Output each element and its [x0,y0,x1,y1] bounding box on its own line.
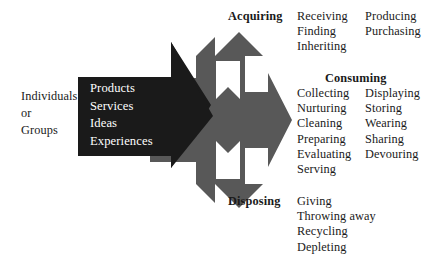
list-item: Preparing [297,132,351,147]
acquiring-activities-column-1: Receiving Finding Inheriting [297,9,348,55]
branch-heading-acquiring: Acquiring [228,9,283,24]
source-line-1: Individuals [21,88,77,105]
list-item: Devouring [365,147,420,162]
source-line-3: Groups [21,122,77,139]
list-item: Receiving [297,9,348,24]
source-actor-label: Individuals or Groups [21,88,77,139]
list-item: Giving [297,194,376,209]
flow-line-1: Products [90,80,153,98]
diagram-canvas: Individuals or Groups Products Services … [0,0,442,266]
acquiring-activities-column-2: Producing Purchasing [365,9,421,39]
branch-heading-disposing: Disposing [228,194,281,209]
source-line-2: or [21,105,77,122]
disposing-activities-column-1: Giving Throwing away Recycling Depleting [297,194,376,255]
consuming-activities-column-2: Displaying Storing Wearing Sharing Devou… [365,86,420,162]
list-item: Producing [365,9,421,24]
branch-heading-consuming: Consuming [325,71,387,86]
list-item: Depleting [297,240,376,255]
list-item: Sharing [365,132,420,147]
flow-line-2: Services [90,98,153,116]
list-item: Displaying [365,86,420,101]
flow-line-3: Ideas [90,115,153,133]
flow-line-4: Experiences [90,133,153,151]
list-item: Cleaning [297,116,351,131]
list-item: Inheriting [297,39,348,54]
list-item: Wearing [365,116,420,131]
list-item: Storing [365,101,420,116]
list-item: Finding [297,24,348,39]
list-item: Collecting [297,86,351,101]
list-item: Evaluating [297,147,351,162]
list-item: Purchasing [365,24,421,39]
list-item: Recycling [297,224,376,239]
flow-contents-label: Products Services Ideas Experiences [90,80,153,150]
consuming-activities-column-1: Collecting Nurturing Cleaning Preparing … [297,86,351,177]
list-item: Throwing away [297,209,376,224]
list-item: Nurturing [297,101,351,116]
list-item: Serving [297,162,351,177]
